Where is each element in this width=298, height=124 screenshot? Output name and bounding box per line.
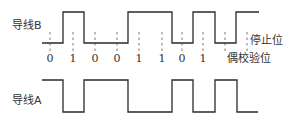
bit-boundary-ticks: [50, 32, 247, 52]
line-b-waveform: [42, 12, 259, 43]
bit-label: 1: [159, 52, 166, 65]
bit-label: 1: [136, 52, 143, 65]
line-a-label: 导线A: [12, 93, 42, 107]
parity-bit-label: 偶校验位: [227, 51, 271, 65]
bit-label: 0: [114, 52, 121, 65]
line-b-label: 导线B: [12, 18, 42, 32]
bit-label: 0: [47, 52, 54, 65]
bit-label: 0: [92, 52, 99, 65]
bit-label: 1: [70, 52, 77, 65]
bit-labels: 01001101: [47, 52, 207, 65]
stop-bit-label: 停止位: [250, 33, 283, 47]
bit-label: 0: [179, 52, 186, 65]
differential-signal-diagram: 导线B 导线A 01001101 偶校验位 停止位: [0, 0, 298, 124]
line-a-waveform: [42, 80, 258, 112]
bit-label: 1: [200, 52, 207, 65]
